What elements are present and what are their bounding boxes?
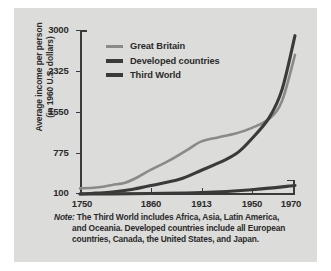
y-axis-title-line-1: Average income per person	[34, 8, 45, 152]
y-tick-label-2325: 2325	[48, 65, 68, 76]
y-tick-label-775: 775	[53, 147, 68, 158]
y-tick-label-3000: 3000	[48, 24, 68, 35]
x-tick-label-1970: 1970	[281, 198, 301, 209]
legend-label-developed-countries: Developed countries	[130, 56, 220, 66]
legend-label-great-britain: Great Britain	[130, 41, 185, 51]
note-text-1: The Third World includes Africa, Asia, L…	[75, 212, 279, 222]
legend-swatch-great-britain	[106, 45, 123, 48]
legend-item-third-world[interactable]: Third World	[106, 68, 236, 83]
x-tick-label-1860: 1860	[141, 198, 161, 209]
legend-label-third-world: Third World	[130, 70, 181, 80]
y-tick-label-100: 100	[53, 187, 68, 198]
note-line-2: and Oceania. Developed countries include…	[54, 223, 302, 234]
legend-swatch-developed-countries	[106, 59, 123, 63]
note-line-3: countries, Canada, the United States, an…	[54, 234, 302, 245]
chart-note: Note: The Third World includes Africa, A…	[54, 212, 302, 246]
y-tick-label-1550: 1550	[48, 106, 68, 117]
note-label: Note:	[54, 212, 75, 222]
legend-item-developed-countries[interactable]: Developed countries	[106, 54, 236, 69]
line-third-world	[80, 186, 295, 194]
x-tick-label-1913: 1913	[191, 198, 211, 209]
note-line-1: Note: The Third World includes Africa, A…	[54, 212, 302, 223]
legend-swatch-third-world	[106, 73, 123, 77]
x-tick-label-1950: 1950	[242, 198, 262, 209]
chart-legend: Great Britain Developed countries Third …	[106, 39, 236, 83]
legend-item-great-britain[interactable]: Great Britain	[106, 39, 236, 54]
chart-figure: Average income per person (in 1960 U.S. …	[14, 8, 317, 262]
x-tick-label-1750: 1750	[72, 198, 92, 209]
